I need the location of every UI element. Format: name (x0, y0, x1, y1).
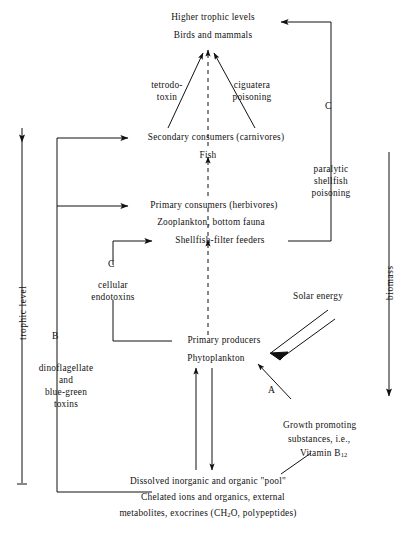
pathway-tag-c-right: C (325, 100, 332, 112)
input-growth-line3: Vitamin B12 (300, 448, 347, 461)
solar-energy-ray-1 (272, 310, 328, 352)
pathway-tag-c-left: C (108, 258, 115, 270)
node-higher-trophic-levels: Higher trophic levels (171, 12, 255, 24)
input-solar-energy: Solar energy (293, 291, 343, 303)
pool-formula-post: O, polypeptides) (231, 508, 297, 518)
node-pool-line3: metabolites, exocrines (CH2O, polypeptid… (119, 508, 296, 521)
pool-formula-pre: metabolites, exocrines (CH (119, 508, 227, 518)
toxin-dinoflagellate-line4: toxins (54, 399, 78, 411)
axis-label-biomass: biomass (385, 265, 395, 300)
toxin-dinoflagellate-line3: blue-green (45, 387, 87, 399)
node-phytoplankton: Phytoplankton (187, 353, 244, 365)
toxin-paralytic-line1: paralytic (314, 164, 349, 176)
node-primary-producers: Primary producers (187, 335, 260, 347)
toxin-cellular-line2: endotoxins (91, 292, 134, 304)
node-shellfish-filter-feeders: Shellfish-filter feeders (175, 235, 264, 247)
node-pool-line1: Dissolved inorganic and organic "pool" (130, 476, 286, 488)
toxin-tetrodotoxin-line1: tetrodo- (151, 80, 182, 92)
axis-label-trophic-level: trophic level (18, 285, 28, 340)
node-pool-line2: Chelated ions and organics, external (141, 492, 285, 504)
toxin-paralytic-line3: poisoning (312, 188, 351, 200)
toxin-paralytic-line2: shellfish (314, 176, 348, 188)
node-zooplankton: Zooplankton, bottom fauna (157, 217, 265, 229)
toxin-tetrodotoxin-line2: toxin (157, 92, 177, 104)
toxin-ciguatera-line2: poisoning (233, 92, 272, 104)
pathway-c-left-bottom (113, 300, 172, 341)
pathway-tag-b: B (52, 330, 59, 342)
node-birds-and-mammals: Birds and mammals (174, 30, 253, 42)
toxin-dinoflagellate-line1: dinoflagellate (39, 363, 94, 375)
toxin-cellular-line1: cellular (98, 280, 128, 292)
pathway-c-right (281, 22, 331, 241)
food-web-diagram (0, 0, 417, 535)
input-growth-line1: Growth promoting (283, 420, 356, 432)
toxin-dinoflagellate-line2: and (59, 375, 73, 387)
toxin-ciguatera-line1: ciguatera (234, 80, 270, 92)
pathway-tag-a: A (268, 384, 275, 396)
node-fish: Fish (199, 150, 216, 162)
node-primary-consumers: Primary consumers (herbivores) (150, 200, 277, 212)
vitamin-b-subscript: 12 (341, 451, 348, 458)
node-secondary-consumers: Secondary consumers (carnivores) (148, 132, 285, 144)
input-growth-line2: substances, i.e., (288, 434, 350, 446)
vitamin-b-text: Vitamin B (300, 448, 341, 458)
